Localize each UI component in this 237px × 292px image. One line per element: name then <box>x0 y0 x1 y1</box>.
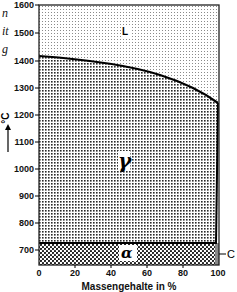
arrow-head-icon <box>5 124 11 130</box>
x-axis: 0 20 40 60 80 100 <box>36 265 225 278</box>
y-axis: 1600 1500 1400 1300 1200 1100 1000 900 8… <box>14 0 39 255</box>
y-axis-label: °C <box>0 112 11 123</box>
label-gamma: γ <box>118 149 132 173</box>
x-tick-60: 60 <box>142 268 152 278</box>
y-tick-900: 900 <box>19 191 34 201</box>
y-tick-700: 700 <box>19 245 34 255</box>
label-c: C <box>227 248 235 260</box>
y-tick-1600: 1600 <box>14 0 34 10</box>
y-tick-1500: 1500 <box>14 28 34 38</box>
x-tick-20: 20 <box>70 268 80 278</box>
y-tick-1100: 1100 <box>14 137 34 147</box>
y-tick-800: 800 <box>19 218 34 228</box>
x-tick-80: 80 <box>178 268 188 278</box>
side-text-3: g <box>2 42 8 56</box>
x-tick-0: 0 <box>36 268 41 278</box>
x-tick-100: 100 <box>210 268 225 278</box>
y-tick-1000: 1000 <box>14 164 34 174</box>
label-L: L <box>122 26 128 37</box>
phase-diagram: n it g L γ α C 1600 1500 1400 1300 <box>0 0 237 292</box>
side-text-1: n <box>2 6 8 20</box>
y-tick-1300: 1300 <box>14 83 34 93</box>
label-alpha: α <box>121 244 133 262</box>
x-tick-40: 40 <box>106 268 116 278</box>
side-text-2: it <box>2 24 9 38</box>
x-axis-label: Massengehalte in % <box>81 281 176 292</box>
y-tick-1200: 1200 <box>14 110 34 120</box>
y-tick-1400: 1400 <box>14 56 34 66</box>
